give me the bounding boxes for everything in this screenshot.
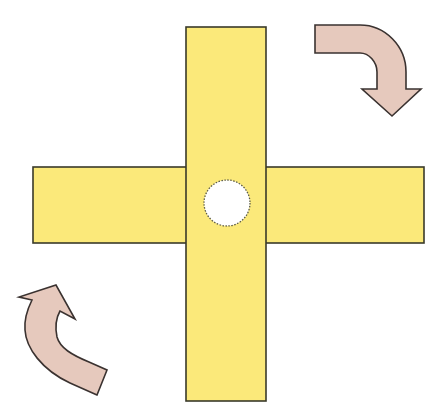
pivot-circle <box>204 180 250 226</box>
diagram-canvas: Rotating cross with pivot and clockwise … <box>0 0 435 416</box>
clockwise-arrow-icon-bottom-left <box>19 285 107 395</box>
clockwise-arrow-icon-top-right <box>315 25 421 116</box>
diagram-svg <box>0 0 435 416</box>
